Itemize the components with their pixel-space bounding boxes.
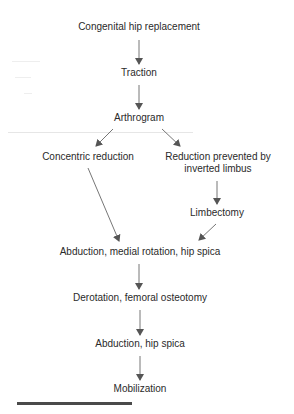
arrow-arthrogram-to-prevented	[162, 129, 180, 146]
node-mobilization: Mobilization	[114, 383, 167, 395]
arrows-layer	[0, 0, 294, 414]
node-reduction-prevented-line2: inverted limbus	[165, 163, 271, 175]
node-concentric-reduction: Concentric reduction	[42, 151, 134, 163]
node-traction: Traction	[121, 67, 157, 79]
node-limbectomy: Limbectomy	[190, 207, 244, 219]
arrow-concentric-to-abduction	[88, 168, 119, 241]
flowchart: Congenital hip replacement Traction Arth…	[0, 0, 294, 414]
node-abduction-hip-spica: Abduction, hip spica	[95, 338, 185, 350]
node-abduction-medial-rotation: Abduction, medial rotation, hip spica	[60, 246, 221, 258]
footer-rule-bar	[17, 402, 132, 405]
arrow-arthrogram-to-concentric	[96, 129, 113, 146]
arrow-limbectomy-to-abduction	[199, 224, 216, 240]
node-congenital-hip-replacement: Congenital hip replacement	[78, 21, 200, 33]
node-derotation-osteotomy: Derotation, femoral osteotomy	[73, 292, 207, 304]
node-reduction-prevented-line1: Reduction prevented by	[165, 151, 271, 163]
node-reduction-prevented: Reduction prevented by inverted limbus	[165, 151, 271, 175]
node-arthrogram: Arthrogram	[114, 112, 164, 124]
